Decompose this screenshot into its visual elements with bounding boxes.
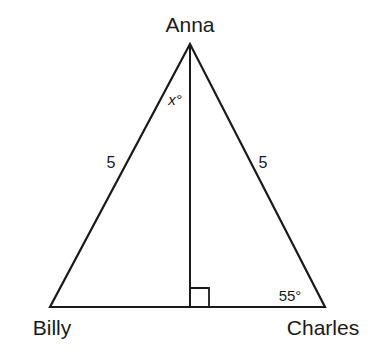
side-label-right: 5	[259, 154, 268, 171]
vertex-label-billy: Billy	[33, 316, 72, 339]
angle-label-x: x°	[167, 91, 182, 108]
vertex-label-charles: Charles	[287, 316, 359, 339]
triangle-outline	[50, 44, 325, 307]
side-label-left: 5	[107, 154, 116, 171]
right-angle-marker	[190, 288, 209, 307]
angle-label-55: 55°	[279, 287, 302, 304]
triangle-diagram: Anna Billy Charles 5 5 x° 55°	[0, 0, 373, 354]
vertex-label-anna: Anna	[165, 13, 214, 36]
